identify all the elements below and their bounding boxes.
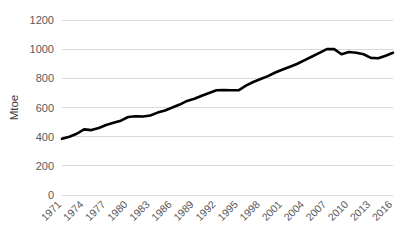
y-tick-label: 600 [36, 102, 54, 114]
y-tick-label: 200 [36, 160, 54, 172]
line-chart: 020040060080010001200 197119741977198019… [0, 0, 411, 244]
y-axis-title: Mtoe [8, 95, 20, 121]
y-tick-label: 800 [36, 72, 54, 84]
y-tick-label: 400 [36, 131, 54, 143]
y-tick-label: 1200 [30, 14, 54, 26]
y-tick-label: 1000 [30, 43, 54, 55]
chart-page: 020040060080010001200 197119741977198019… [0, 0, 411, 244]
